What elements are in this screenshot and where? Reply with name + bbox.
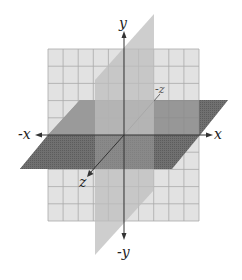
label-y-negative: -y (117, 244, 131, 260)
y-arrow-up-icon (122, 31, 127, 38)
label-x-negative: -x (18, 126, 31, 142)
xz-plane-front-left-edge (20, 135, 95, 169)
label-z-negative: -z (155, 83, 165, 96)
label-z-positive: z (78, 174, 87, 190)
coordinate-planes-diagram: y -y x -x z -z (0, 0, 242, 280)
x-arrow-left-icon (35, 133, 42, 138)
label-y-positive: y (118, 15, 128, 31)
label-x-positive: x (214, 126, 222, 142)
x-arrow-right-icon (206, 133, 213, 138)
y-arrow-down-icon (122, 233, 127, 240)
